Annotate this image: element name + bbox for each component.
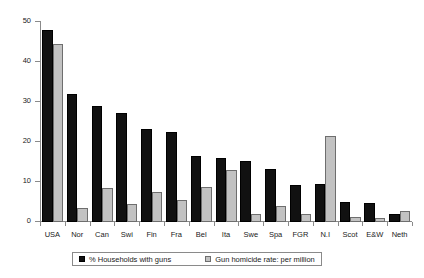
bar-nor-series-2 — [77, 208, 88, 222]
y-axis-tick-label: 40 — [23, 56, 31, 65]
x-axis-tick — [139, 222, 140, 226]
bar-swe-series-2 — [251, 214, 262, 222]
bar-group — [313, 22, 338, 222]
x-axis-tick — [65, 222, 66, 226]
y-axis-tick-label: 0 — [27, 216, 31, 225]
bar-spa-series-1 — [265, 169, 276, 222]
bar-e-w-series-2 — [375, 218, 386, 222]
x-axis-tick — [40, 222, 41, 226]
bar-usa-series-2 — [53, 44, 64, 222]
x-axis-label-ita: Ita — [214, 230, 239, 240]
bar-scot-series-2 — [350, 217, 361, 222]
bar-group — [387, 22, 412, 222]
x-axis-label-usa: USA — [40, 230, 65, 240]
x-axis-label-scot: Scot — [338, 230, 363, 240]
bar-group — [139, 22, 164, 222]
x-axis-label-swe: Swe — [238, 230, 263, 240]
x-axis-tick — [288, 222, 289, 226]
y-axis-tick-label: 30 — [23, 96, 31, 105]
x-axis-tick — [164, 222, 165, 226]
bar-group — [238, 22, 263, 222]
legend-label: Gun homicide rate: per million — [215, 255, 315, 264]
bar-chart: 01020304050 USANorCanSwiFinFraBelItaSweS… — [0, 0, 424, 278]
x-axis-tick — [313, 222, 314, 226]
bar-fgr-series-2 — [301, 214, 312, 222]
x-axis-label-fin: Fin — [139, 230, 164, 240]
bar-fin-series-1 — [141, 129, 152, 222]
x-axis-label-n-i: N.I — [313, 230, 338, 240]
bar-neth-series-1 — [389, 214, 400, 222]
x-axis-tick — [214, 222, 215, 226]
x-axis-label-fra: Fra — [164, 230, 189, 240]
bar-group — [362, 22, 387, 222]
bar-usa-series-1 — [42, 30, 53, 222]
x-axis-tick — [338, 222, 339, 226]
bar-bel-series-1 — [191, 156, 202, 222]
bar-group — [65, 22, 90, 222]
plot-area: 01020304050 — [40, 22, 412, 222]
bar-group — [263, 22, 288, 222]
x-axis-label-swi: Swi — [114, 230, 139, 240]
bar-group — [214, 22, 239, 222]
bar-group — [40, 22, 65, 222]
bar-nor-series-1 — [67, 94, 78, 222]
legend-label: % Households with guns — [89, 255, 171, 264]
bar-n-i-series-2 — [325, 136, 336, 222]
x-axis-label-bel: Bel — [189, 230, 214, 240]
legend-entry-1: % Households with guns — [79, 255, 171, 264]
legend-entry-2: Gun homicide rate: per million — [205, 255, 315, 264]
bar-ita-series-1 — [216, 158, 227, 222]
x-axis-tick — [412, 222, 413, 226]
bar-scot-series-1 — [340, 202, 351, 222]
bar-fra-series-1 — [166, 132, 177, 222]
x-axis-tick — [114, 222, 115, 226]
bar-group — [114, 22, 139, 222]
y-axis-tick-label: 10 — [23, 176, 31, 185]
y-axis-tick-label: 50 — [23, 16, 31, 25]
bar-spa-series-2 — [276, 206, 287, 222]
y-axis-tick-label: 20 — [23, 136, 31, 145]
x-axis-labels: USANorCanSwiFinFraBelItaSweSpaFGRN.IScot… — [40, 230, 412, 242]
bars-layer — [40, 22, 412, 222]
hatched-square-icon — [205, 256, 211, 262]
bar-ita-series-2 — [226, 170, 237, 222]
bar-group — [189, 22, 214, 222]
x-axis-label-spa: Spa — [263, 230, 288, 240]
bar-bel-series-2 — [201, 187, 212, 222]
x-axis-label-can: Can — [90, 230, 115, 240]
bar-group — [164, 22, 189, 222]
bar-neth-series-2 — [400, 211, 411, 222]
x-axis-tick — [189, 222, 190, 226]
bar-swi-series-2 — [127, 204, 138, 222]
x-axis-label-e-w: E&W — [362, 230, 387, 240]
bar-can-series-1 — [92, 106, 103, 222]
bar-group — [90, 22, 115, 222]
bar-e-w-series-1 — [364, 203, 375, 222]
bar-fra-series-2 — [177, 200, 188, 222]
bar-can-series-2 — [102, 188, 113, 222]
filled-square-icon — [79, 256, 85, 262]
chart-legend: % Households with gunsGun homicide rate:… — [72, 252, 322, 266]
bar-group — [338, 22, 363, 222]
x-axis-tick — [90, 222, 91, 226]
bar-swi-series-1 — [116, 113, 127, 222]
bar-fin-series-2 — [152, 192, 163, 222]
bar-n-i-series-1 — [315, 184, 326, 222]
x-axis-label-neth: Neth — [387, 230, 412, 240]
bar-swe-series-1 — [240, 161, 251, 222]
x-axis-label-fgr: FGR — [288, 230, 313, 240]
x-axis-tick — [238, 222, 239, 226]
bar-group — [288, 22, 313, 222]
x-axis-tick — [387, 222, 388, 226]
x-axis-tick — [362, 222, 363, 226]
x-axis-label-nor: Nor — [65, 230, 90, 240]
bar-fgr-series-1 — [290, 185, 301, 222]
x-axis-tick — [263, 222, 264, 226]
